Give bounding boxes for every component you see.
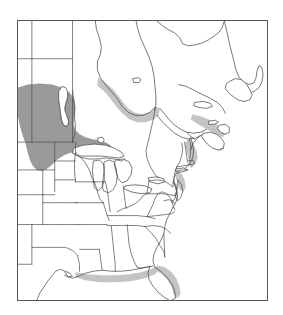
missouri-illinois-border [103, 203, 109, 221]
illinois-indiana-border [105, 182, 110, 212]
lake-superior [73, 144, 125, 158]
mississippi-alabama-border [111, 226, 115, 272]
akimiski-island [133, 78, 141, 83]
prince-edward-island [208, 120, 218, 124]
hudson-bay-west-coast [95, 21, 155, 115]
tennessee-south-border [107, 226, 145, 227]
labrador-north-coast [157, 21, 224, 46]
map-figure [0, 0, 283, 315]
kentucky-ohio-border [117, 194, 147, 212]
virginia-west-virginia-border [147, 192, 175, 217]
hudson-bay-coastal-range [97, 78, 159, 123]
gulf-of-mexico-coast [37, 266, 150, 300]
hudson-bay-east-coast [136, 21, 156, 110]
anticosti-island [194, 101, 213, 108]
texas-east-border [78, 255, 80, 271]
alabama-georgia-border [127, 225, 141, 269]
lake-nipigon [97, 137, 104, 143]
gulf-coastal-range [76, 266, 160, 282]
pennsylvania-maryland-border [147, 194, 175, 196]
louisiana-mississippi-border [99, 249, 102, 270]
coastline-layer [37, 21, 263, 300]
map-frame [17, 20, 268, 301]
tennessee-north-border [107, 216, 155, 219]
oklahoma-texas-border [32, 247, 78, 255]
map-canvas [18, 21, 267, 300]
south-north-carolina-border [145, 226, 171, 234]
new-york-vermont-border [177, 143, 183, 167]
southeast-atlantic-coast [153, 208, 173, 268]
atlantic-coastal-range [185, 138, 198, 168]
newfoundland [225, 79, 252, 102]
shaded-range-layer [18, 78, 225, 298]
gulf-st-lawrence-north-shore [179, 85, 226, 114]
